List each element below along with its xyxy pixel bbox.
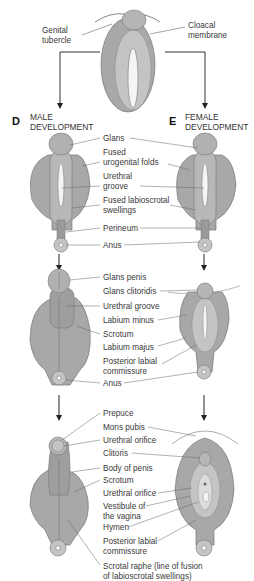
label-cloacal-membrane: Cloacal membrane xyxy=(188,21,227,40)
label-glans: Glans xyxy=(103,134,124,144)
label-vestibule-of-vagina: Vestibule of the vagina xyxy=(103,502,145,521)
label-posterior-labial-commissure: Posterior labial commissure xyxy=(103,357,157,376)
label-scrotal-raphe: Scrotal raphe (line of fusion of labiosc… xyxy=(103,562,203,581)
label-urethral-groove: Urethral groove xyxy=(103,172,132,191)
label-genital-tubercle: Genital tubercle xyxy=(42,26,71,45)
panel-letter-female: E xyxy=(169,115,176,127)
label-perineum: Perineum xyxy=(103,224,138,234)
label-glans-penis: Glans penis xyxy=(103,273,146,283)
label-posterior-labial-commissure-2: Posterior labial commissure xyxy=(103,537,157,556)
panel-letter-male: D xyxy=(12,115,20,127)
female-stage2-figure xyxy=(168,283,240,379)
label-body-of-penis: Body of penis xyxy=(103,464,153,474)
label-anus-1: Anus xyxy=(103,241,122,251)
label-prepuce: Prepuce xyxy=(103,409,134,419)
label-clitoris: Clitoris xyxy=(103,449,128,459)
male-stage3-figure xyxy=(30,437,88,556)
male-stage1-figure xyxy=(30,133,90,252)
label-anus-2: Anus xyxy=(103,379,122,389)
female-stage1-figure xyxy=(177,133,236,252)
label-glans-clitoridis: Glans clitoridis xyxy=(103,287,156,297)
label-fused-labioscrotal-swellings: Fused labioscrotal swellings xyxy=(103,196,169,215)
label-fused-urogenital-folds: Fused urogenital folds xyxy=(103,148,159,167)
label-scrotum-2: Scrotum xyxy=(103,476,133,486)
label-hymen: Hymen xyxy=(103,523,129,533)
female-stage3-figure xyxy=(172,431,238,556)
label-labium-minus: Labium minus xyxy=(103,316,154,326)
label-urethral-orifice-male: Urethral orifice xyxy=(103,436,156,446)
label-urethral-orifice-female: Urethral orifice xyxy=(103,489,156,499)
male-stage2-figure xyxy=(30,269,90,385)
label-labium-majus: Labium majus xyxy=(103,343,154,353)
heading-female-development: FEMALE DEVELOPMENT xyxy=(185,112,248,132)
indifferent-stage-figure xyxy=(95,10,160,112)
label-mons-pubis: Mons pubis xyxy=(103,423,145,433)
label-scrotum: Scrotum xyxy=(103,330,133,340)
label-urethral-groove-2: Urethral groove xyxy=(103,302,159,312)
heading-male-development: MALE DEVELOPMENT xyxy=(30,112,93,132)
